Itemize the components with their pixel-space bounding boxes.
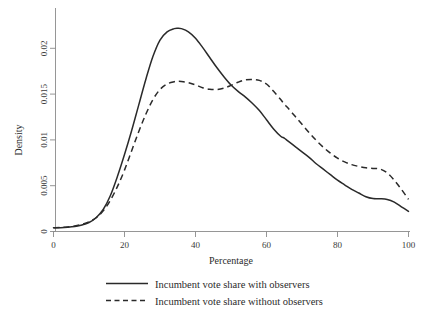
series-line-with-observers (54, 28, 409, 228)
x-tick-label: 80 (333, 240, 343, 250)
y-tick-label: 0 (39, 229, 49, 234)
density-plot-figure: 0 0.005 0.01 0.015 0.02 Density 0 20 40 … (0, 0, 427, 319)
y-axis-title: Density (13, 124, 24, 155)
legend-label-with-observers: Incumbent vote share with observers (155, 279, 310, 290)
x-axis-ticks (54, 232, 409, 238)
y-axis-ticks (50, 48, 56, 231)
x-tick-label: 0 (51, 240, 56, 250)
y-axis-tick-labels: 0 0.005 0.01 0.015 0.02 (39, 40, 49, 233)
y-tick-label: 0.015 (39, 83, 49, 104)
x-tick-label: 100 (402, 240, 416, 250)
x-tick-label: 20 (120, 240, 130, 250)
y-tick-label: 0.01 (39, 132, 49, 148)
x-tick-label: 40 (191, 240, 201, 250)
chart-canvas: 0 0.005 0.01 0.015 0.02 Density 0 20 40 … (0, 0, 427, 319)
y-tick-label: 0.005 (39, 175, 49, 196)
legend-label-without-observers: Incumbent vote share without observers (155, 296, 323, 307)
y-tick-label: 0.02 (39, 40, 49, 56)
series-line-without-observers (54, 79, 409, 227)
x-tick-label: 60 (262, 240, 272, 250)
x-axis-title: Percentage (209, 255, 253, 266)
legend: Incumbent vote share with observers Incu… (106, 279, 323, 307)
x-axis-tick-labels: 0 20 40 60 80 100 (51, 240, 416, 250)
